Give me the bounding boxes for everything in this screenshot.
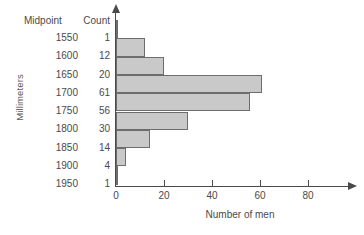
bar [116,130,150,148]
x-axis-tick-label: 20 [149,190,179,201]
x-axis-tick-label: 80 [293,190,323,201]
x-axis-tick [260,180,261,187]
x-axis-tick-label: 60 [245,190,275,201]
x-axis-title: Number of men [160,209,320,220]
x-axis-tick [308,180,309,187]
bar [116,38,145,56]
bar [116,75,262,93]
bar [116,148,126,166]
histogram-figure: Millimeters Midpoint Count 1550116001216… [0,0,364,235]
bar [116,93,250,111]
x-axis-tick-label: 0 [101,190,131,201]
bar [116,112,188,130]
x-axis-tick [212,180,213,187]
x-axis-tick [164,180,165,187]
x-axis-tick-label: 40 [197,190,227,201]
plot-area: 020406080 Number of men [0,0,364,235]
bar [116,166,118,184]
bar [116,20,118,38]
x-axis-arrow-icon [348,182,357,190]
bar [116,57,164,75]
y-axis-arrow-icon [112,4,120,13]
x-axis-line [115,186,351,187]
